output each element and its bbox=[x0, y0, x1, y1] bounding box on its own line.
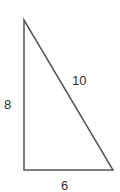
horizontal-side-label: 6 bbox=[61, 178, 68, 192]
triangle-diagram: 8 10 6 bbox=[0, 0, 120, 192]
right-triangle bbox=[24, 20, 113, 170]
vertical-side-label: 8 bbox=[4, 97, 11, 112]
hypotenuse-label: 10 bbox=[72, 73, 86, 88]
